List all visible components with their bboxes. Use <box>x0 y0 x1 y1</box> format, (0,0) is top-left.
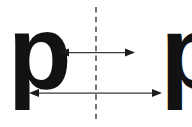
letter-q-glyph: q <box>160 0 192 110</box>
diagram-canvas: Reflection symmetry of letters p and q a… <box>0 0 192 127</box>
reflection-symmetry-figure: Reflection symmetry of letters p and q a… <box>0 0 192 127</box>
letter-q-mirror-group: q <box>160 0 192 110</box>
